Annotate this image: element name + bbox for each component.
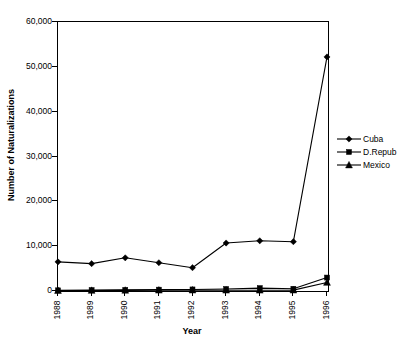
x-axis-tick-label: 1991 (141, 292, 175, 326)
x-axis-tick-label: 1988 (40, 292, 74, 326)
diamond-marker-icon (336, 133, 362, 145)
data-point-marker (122, 255, 128, 261)
legend-item-mexico: Mexico (336, 159, 408, 171)
x-axis-tick-label-text: 1991 (153, 301, 163, 320)
data-point-marker (257, 238, 263, 244)
data-point-marker (55, 259, 61, 265)
x-axis-tick-label-text: 1990 (119, 301, 129, 320)
y-axis-tick-label: 60,000 (18, 17, 52, 26)
y-axis-tick-label: 30,000 (18, 151, 52, 160)
chart-legend: CubaD.RepubMexico (336, 133, 408, 172)
x-axis-tick-label-text: 1995 (287, 301, 297, 320)
series-cuba (55, 54, 330, 271)
x-axis-tick-label-text: 1992 (186, 301, 196, 320)
y-axis-tick-label: 20,000 (18, 196, 52, 205)
x-axis-title: Year (57, 326, 327, 336)
x-axis-tick-label-text: 1996 (321, 301, 331, 320)
x-axis-tick-label: 1994 (242, 292, 276, 326)
square-marker-icon (336, 146, 362, 158)
legend-item-label: Cuba (362, 134, 383, 144)
x-axis-tick-label-text: 1989 (86, 301, 96, 320)
plot-svg (58, 22, 328, 291)
line-chart: Number of Naturalizations 010,00020,0003… (0, 0, 410, 345)
y-axis-tick-label: 50,000 (18, 61, 52, 70)
x-axis-tick-label-text: 1993 (220, 301, 230, 320)
y-axis-tick-label: 40,000 (18, 106, 52, 115)
y-axis-tick-label: 10,000 (18, 241, 52, 250)
data-point-marker (324, 54, 330, 60)
data-point-marker (156, 260, 162, 266)
x-axis-tick-label-text: 1994 (254, 301, 264, 320)
legend-item-label: D.Repub (362, 147, 397, 157)
x-axis-title-text: Year (182, 326, 201, 336)
x-axis-tick-label: 1995 (275, 292, 309, 326)
x-axis-tick-label-text: 1988 (52, 301, 62, 320)
series-line (58, 57, 327, 268)
legend-item-cuba: Cuba (336, 133, 408, 145)
x-axis-tick-label: 1992 (175, 292, 209, 326)
legend-item-label: Mexico (362, 160, 390, 170)
x-axis-tick-label: 1993 (208, 292, 242, 326)
x-axis-tick-label: 1989 (74, 292, 108, 326)
data-point-marker (89, 261, 95, 267)
x-axis-tick-label: 1996 (309, 292, 343, 326)
y-axis-title-text: Number of Naturalizations (6, 89, 16, 201)
triangle-marker-icon (336, 159, 362, 171)
data-point-marker (290, 239, 296, 245)
legend-item-d-repub: D.Repub (336, 146, 408, 158)
x-axis-tick-label: 1990 (107, 292, 141, 326)
plot-area (57, 21, 329, 292)
